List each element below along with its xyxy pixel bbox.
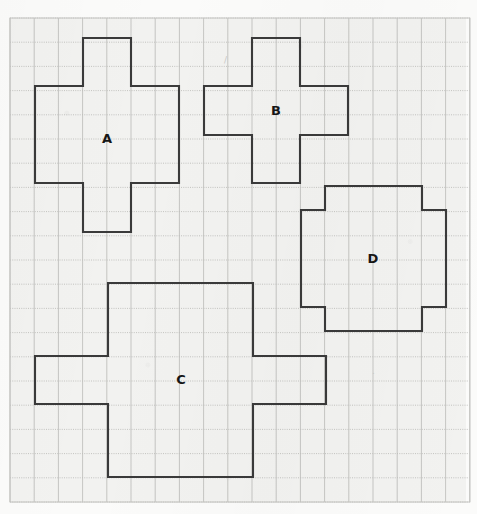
shape-label-b: B xyxy=(271,103,281,118)
grid-lines xyxy=(10,18,470,502)
shape-c[interactable]: C xyxy=(35,283,326,477)
worksheet-canvas: ABCD/. xyxy=(0,0,477,514)
shape-label-d: D xyxy=(368,251,379,266)
grid-and-shapes-layer: ABCD/. xyxy=(0,0,477,514)
stray-mark-2: . xyxy=(372,366,375,376)
shape-d[interactable]: D xyxy=(301,186,446,331)
stray-mark-1: / xyxy=(224,55,228,65)
shape-label-c: C xyxy=(176,372,186,387)
shape-label-a: A xyxy=(102,131,112,146)
